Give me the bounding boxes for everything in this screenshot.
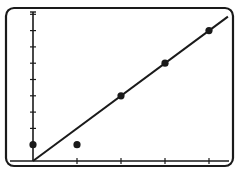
data-point	[161, 60, 168, 67]
data-points	[29, 27, 212, 148]
axes	[10, 12, 229, 161]
data-point	[205, 27, 212, 34]
axis-ticks	[30, 14, 209, 164]
chart-frame	[6, 8, 233, 166]
fit-line	[33, 17, 228, 161]
data-point	[29, 141, 36, 148]
data-point	[117, 92, 124, 99]
scatter-chart	[0, 0, 235, 176]
data-point	[73, 141, 80, 148]
